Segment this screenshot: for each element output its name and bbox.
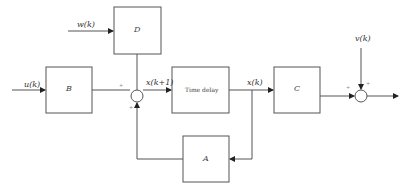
sum-junction-2 (355, 90, 367, 102)
block-d-label: D (134, 25, 140, 34)
sign-sum1-bottom: + (129, 104, 133, 110)
block-time-delay-label: Time delay (185, 86, 218, 93)
sign-sum2-left: + (346, 84, 350, 90)
signal-v-label: v(k) (355, 34, 371, 43)
signal-x-next-label: x(k+1) (146, 78, 173, 87)
signal-w-label: w(k) (77, 20, 95, 29)
block-b-label: B (66, 84, 72, 93)
sum-junction-1 (131, 90, 143, 102)
signal-x-label: x(k) (247, 78, 263, 87)
signal-u-label: u(k) (24, 80, 40, 89)
block-c-label: C (294, 84, 300, 93)
block-a-label: A (203, 154, 209, 163)
diagram-canvas (0, 0, 412, 195)
sign-sum1-left: + (119, 82, 123, 88)
sign-sum2-top: + (366, 80, 370, 86)
